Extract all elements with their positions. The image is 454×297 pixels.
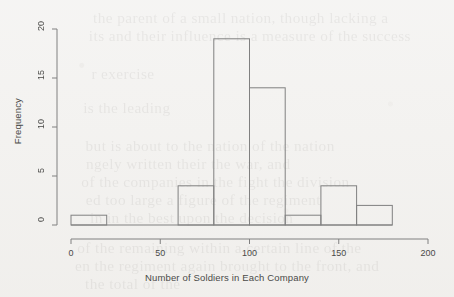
y-axis [52,29,57,225]
y-axis-label: Frequency [12,98,23,144]
y-tick-label: 20 [36,21,46,31]
histogram-bar [71,215,107,225]
x-tick-label: 150 [331,248,346,258]
y-tick-label: 15 [36,70,46,80]
y-tick-label: 5 [36,168,46,173]
histogram-bar [285,215,321,225]
y-tick-label: 0 [36,217,46,222]
histogram-bars [71,39,392,225]
y-tick-label: 10 [36,119,46,129]
histogram-bar [250,88,286,225]
x-tick-label: 200 [420,248,435,258]
histogram-bar [357,205,393,225]
histogram-plot: 050100150200 05101520 Number of Soldiers… [0,0,454,297]
x-tick-label: 50 [155,248,165,258]
histogram-bar [178,186,214,225]
x-axis-label: Number of Soldiers in Each Company [0,272,454,283]
histogram-bar [214,39,250,225]
x-axis [71,239,428,244]
histogram-bar [321,186,357,225]
x-tick-label: 100 [242,248,257,258]
x-tick-label: 0 [68,248,73,258]
